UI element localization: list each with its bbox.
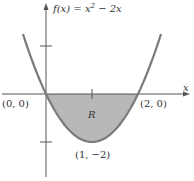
point-label-root: (2, 0)	[140, 98, 167, 109]
x-axis-label: x	[183, 82, 189, 93]
parabola-plot: f(x) = x2 − 2x x R (0, 0) (2, 0) (1, −2)	[0, 0, 194, 181]
function-label: f(x) = x2 − 2x	[52, 2, 122, 14]
region-label: R	[87, 109, 96, 120]
point-label-origin: (0, 0)	[2, 98, 29, 109]
y-axis-arrow	[44, 3, 49, 10]
point-label-vertex: (1, −2)	[75, 149, 110, 160]
